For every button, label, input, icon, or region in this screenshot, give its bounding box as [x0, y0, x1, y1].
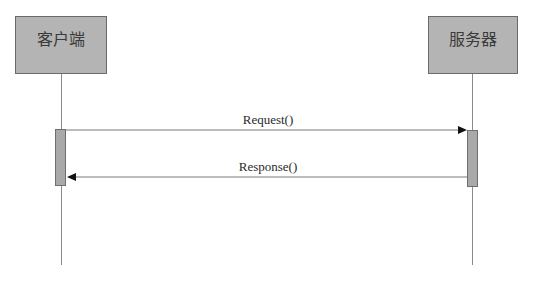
activation-client — [55, 129, 66, 186]
sequence-diagram: 客户端 服务器 Request() Response() — [0, 0, 534, 282]
response-label: Response() — [239, 159, 298, 175]
response-arrowhead-icon — [67, 173, 76, 181]
request-arrowhead-icon — [458, 126, 467, 134]
message-arrows — [0, 0, 534, 282]
activation-server — [467, 130, 478, 187]
request-label: Request() — [243, 112, 294, 128]
